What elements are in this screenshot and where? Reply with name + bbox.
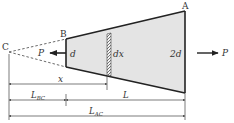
element-label-dx: dx	[113, 49, 124, 59]
dimension-label-l: L	[122, 90, 129, 100]
dimension-label-lbc: LBC	[30, 90, 46, 101]
tapered-bar	[66, 11, 185, 93]
point-label-b: B	[60, 29, 67, 39]
load-label-right: P	[221, 48, 229, 58]
point-label-a: A	[181, 1, 189, 11]
diameter-label-small: d	[70, 49, 76, 59]
point-label-c: C	[2, 42, 9, 52]
dimension-label-lac: LAC	[88, 106, 104, 117]
load-label-left: P	[37, 48, 45, 58]
diameter-label-large: 2d	[169, 49, 182, 59]
dx-element	[107, 33, 111, 76]
dimension-label-x: x	[58, 74, 63, 84]
